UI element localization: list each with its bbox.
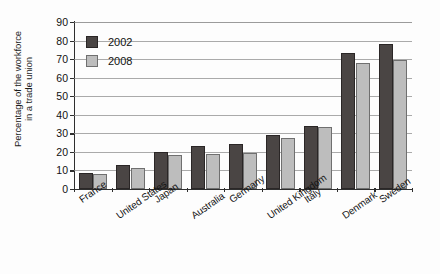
x-tick-mark-origin bbox=[74, 188, 75, 192]
x-axis-label-australia: Australia bbox=[189, 190, 226, 221]
legend: 2002 2008 bbox=[86, 32, 168, 70]
x-axis-label-denmark: Denmark bbox=[340, 189, 379, 221]
bar-united-kingdom-2002[interactable] bbox=[266, 135, 280, 189]
legend-item-2002[interactable]: 2002 bbox=[86, 32, 168, 51]
legend-item-2008[interactable]: 2008 bbox=[86, 51, 168, 70]
x-tick-mark-7 bbox=[374, 188, 375, 192]
bar-denmark-2008[interactable] bbox=[356, 63, 370, 189]
x-tick-mark-8 bbox=[412, 188, 413, 192]
bar-germany-2008[interactable] bbox=[243, 153, 257, 189]
legend-label-2002: 2002 bbox=[108, 36, 132, 48]
bar-chart-figure: Percentage of the workforce in a trade u… bbox=[0, 0, 440, 274]
bar-france-2002[interactable] bbox=[79, 173, 93, 189]
x-tick-mark-3 bbox=[224, 188, 225, 192]
y-tick-label-80: 80 bbox=[56, 34, 68, 46]
bar-sweden-2002[interactable] bbox=[379, 44, 393, 189]
x-tick-mark-6 bbox=[337, 188, 338, 192]
bar-group-sweden bbox=[379, 22, 408, 189]
bar-australia-2008[interactable] bbox=[206, 154, 220, 189]
bar-australia-2002[interactable] bbox=[191, 146, 205, 189]
y-tick-label-50: 50 bbox=[56, 90, 68, 102]
bar-group-australia bbox=[191, 22, 220, 189]
y-tick-label-10: 10 bbox=[56, 164, 68, 176]
legend-swatch-icon-2008 bbox=[86, 55, 98, 67]
bar-italy-2002[interactable] bbox=[304, 126, 318, 189]
y-tick-label-0: 0 bbox=[62, 183, 68, 195]
bar-group-germany bbox=[229, 22, 258, 189]
bar-france-2008[interactable] bbox=[93, 174, 107, 189]
bar-japan-2008[interactable] bbox=[168, 155, 182, 189]
y-axis-title-line-1: Percentage of the workforce bbox=[12, 31, 23, 147]
y-tick-label-90: 90 bbox=[56, 16, 68, 28]
y-tick-label-60: 60 bbox=[56, 71, 68, 83]
bar-united-states-2008[interactable] bbox=[131, 168, 145, 189]
bar-group-italy bbox=[304, 22, 333, 189]
x-tick-mark-2 bbox=[187, 188, 188, 192]
y-tick-label-70: 70 bbox=[56, 53, 68, 65]
legend-label-2008: 2008 bbox=[108, 55, 132, 67]
y-axis-title-container: Percentage of the workforce in a trade u… bbox=[0, 0, 46, 200]
bar-japan-2002[interactable] bbox=[154, 152, 168, 189]
bar-group-denmark bbox=[341, 22, 370, 189]
x-tick-mark-4 bbox=[262, 188, 263, 192]
bar-sweden-2008[interactable] bbox=[393, 60, 407, 189]
y-axis-title-line-2: in a trade union bbox=[23, 57, 34, 121]
y-tick-label-40: 40 bbox=[56, 109, 68, 121]
bar-germany-2002[interactable] bbox=[229, 144, 243, 189]
y-tick-label-30: 30 bbox=[56, 127, 68, 139]
bar-italy-2008[interactable] bbox=[318, 127, 332, 189]
x-tick-mark-1 bbox=[149, 188, 150, 192]
bar-united-states-2002[interactable] bbox=[116, 165, 130, 189]
y-axis-title: Percentage of the workforce in a trade u… bbox=[12, 14, 34, 164]
x-tick-mark-5 bbox=[299, 188, 300, 192]
bar-group-united-kingdom bbox=[266, 22, 295, 189]
legend-swatch-icon-2002 bbox=[86, 36, 98, 48]
x-tick-mark-0 bbox=[112, 188, 113, 192]
bar-united-kingdom-2008[interactable] bbox=[281, 138, 295, 189]
bar-denmark-2002[interactable] bbox=[341, 53, 355, 189]
y-tick-label-20: 20 bbox=[56, 146, 68, 158]
